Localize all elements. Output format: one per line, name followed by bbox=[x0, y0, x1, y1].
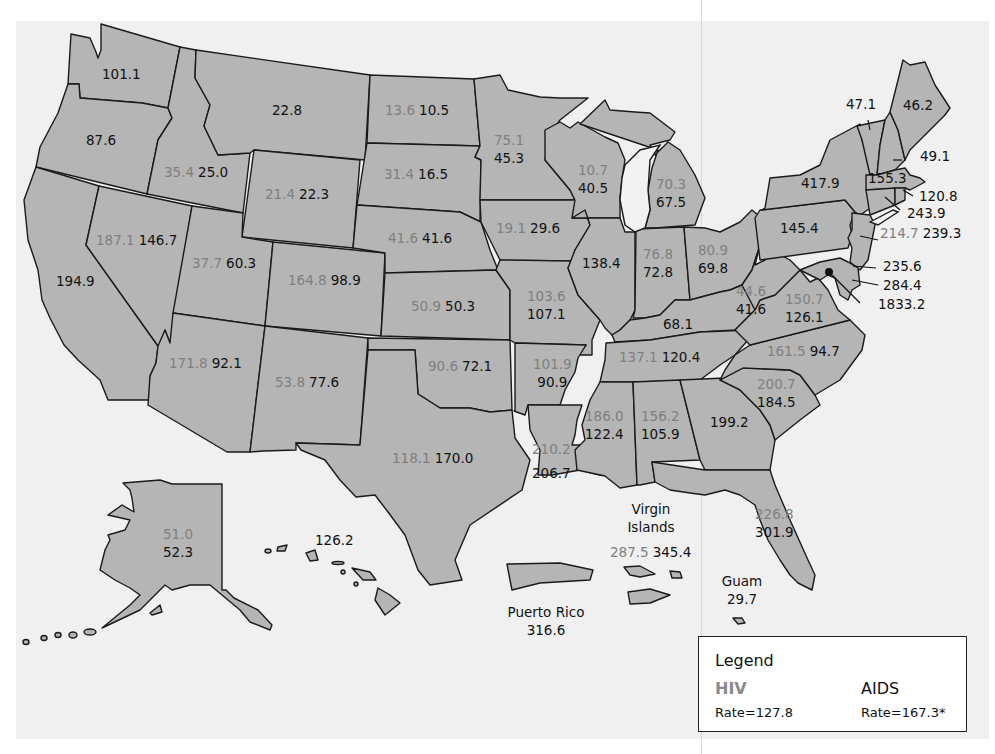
label-pa: 145.4 bbox=[780, 222, 819, 236]
label-wi: 10.740.5 bbox=[578, 164, 608, 195]
label-ca: 194.9 bbox=[56, 275, 95, 289]
label-ky: 68.1 bbox=[663, 318, 693, 332]
label-la: 210.2206.7 bbox=[532, 443, 571, 480]
label-az: 171.892.1 bbox=[169, 357, 242, 371]
label-nj: 214.7239.3 bbox=[880, 227, 961, 241]
label-ak: 51.052.3 bbox=[163, 528, 193, 559]
label-ks: 50.950.3 bbox=[411, 300, 475, 314]
label-virgin-islands: Virgin Islands bbox=[606, 500, 696, 536]
label-ga: 199.2 bbox=[710, 416, 749, 430]
legend-title: Legend bbox=[715, 651, 774, 670]
label-nv: 187.1146.7 bbox=[96, 234, 177, 248]
label-or: 87.6 bbox=[86, 134, 116, 148]
state-co bbox=[265, 242, 385, 336]
label-id: 35.425.0 bbox=[164, 166, 228, 180]
label-guam: Guam 29.7 bbox=[712, 572, 772, 608]
label-sd: 31.416.5 bbox=[384, 168, 448, 182]
label-dc: 1833.2 bbox=[878, 298, 925, 312]
label-in: 76.872.8 bbox=[643, 248, 673, 279]
label-nc: 161.594.7 bbox=[767, 345, 840, 359]
territory-puerto-rico bbox=[507, 563, 593, 590]
label-oh: 80.969.8 bbox=[698, 244, 728, 275]
label-ar: 101.990.9 bbox=[533, 358, 572, 389]
label-al: 156.2105.9 bbox=[641, 410, 680, 441]
label-de: 235.6 bbox=[883, 260, 922, 274]
label-il: 138.4 bbox=[582, 257, 621, 271]
label-tn: 137.1120.4 bbox=[619, 351, 700, 365]
label-nd: 13.610.5 bbox=[385, 104, 449, 118]
label-md: 284.4 bbox=[883, 279, 922, 293]
label-sc: 200.7184.5 bbox=[757, 378, 796, 409]
territory-virgin-islands bbox=[624, 566, 682, 604]
legend-box: Legend HIV AIDS Rate=127.8 Rate=167.3* bbox=[698, 636, 967, 732]
label-ut: 37.760.3 bbox=[192, 257, 256, 271]
label-ma: 155.3 bbox=[868, 172, 907, 186]
state-az bbox=[148, 313, 265, 452]
label-mn: 75.145.3 bbox=[494, 134, 524, 165]
label-mo: 103.6107.1 bbox=[527, 290, 566, 321]
legend-aids-rate: Rate=167.3* bbox=[861, 705, 945, 720]
label-puerto-rico: Puerto Rico 316.6 bbox=[496, 603, 596, 639]
label-mt: 22.8 bbox=[272, 104, 302, 118]
label-wv: 44.641.6 bbox=[736, 285, 766, 316]
alaska-islands bbox=[150, 605, 162, 615]
label-tx: 118.1170.0 bbox=[392, 452, 473, 466]
label-nh: 49.1 bbox=[920, 150, 950, 164]
label-ne: 41.641.6 bbox=[388, 232, 452, 246]
label-ct: 243.9 bbox=[907, 207, 946, 221]
legend-aids-label: AIDS bbox=[861, 679, 899, 698]
territory-guam bbox=[733, 618, 745, 624]
state-hi bbox=[265, 545, 400, 615]
legend-hiv-label: HIV bbox=[715, 679, 747, 698]
label-wa: 101.1 bbox=[102, 68, 141, 82]
state-ny bbox=[762, 124, 875, 215]
label-fl: 226.8301.9 bbox=[755, 508, 794, 539]
label-ny: 417.9 bbox=[801, 177, 840, 191]
label-co: 164.898.9 bbox=[288, 274, 361, 288]
label-vt: 47.1 bbox=[846, 98, 876, 112]
legend-hiv-rate: Rate=127.8 bbox=[715, 705, 793, 720]
dc-marker bbox=[825, 268, 833, 276]
label-va: 150.7126.1 bbox=[785, 293, 824, 324]
label-ia: 19.129.6 bbox=[496, 222, 560, 236]
label-mi: 70.367.5 bbox=[656, 178, 686, 209]
label-nm: 53.877.6 bbox=[275, 376, 339, 390]
label-me: 46.2 bbox=[903, 99, 933, 113]
label-hi: 126.2 bbox=[315, 534, 354, 548]
label-ok: 90.672.1 bbox=[428, 360, 492, 374]
label-wy: 21.422.3 bbox=[265, 188, 329, 202]
label-ri: 120.8 bbox=[919, 190, 958, 204]
label-ms: 186.0122.4 bbox=[585, 410, 624, 441]
label-virgin-islands-rates: 287.5345.4 bbox=[610, 546, 691, 560]
